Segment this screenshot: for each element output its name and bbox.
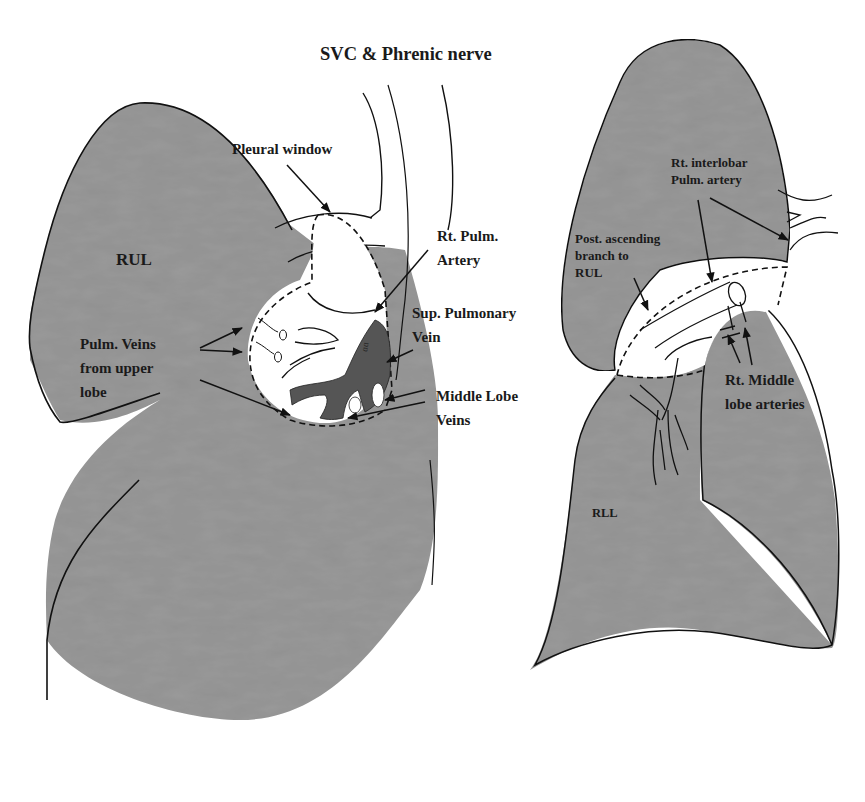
right-lung-panel: [530, 40, 839, 670]
sup-pulmonary-vein-label-line2: Vein: [412, 329, 441, 346]
rll-lobe-label: RLL: [592, 506, 618, 520]
post-ascending-label-line2: branch to: [575, 249, 629, 264]
middle-lobe-veins-label-line1: Middle Lobe: [436, 388, 518, 405]
post-ascending-label-line1: Post. ascending: [575, 232, 660, 247]
rt-pulm-artery-label-line2: Artery: [437, 252, 480, 269]
pulm-veins-label-line2: from upper: [80, 360, 153, 377]
pulm-veins-label-line1: Pulm. Veins: [80, 336, 156, 353]
svc-phrenic-nerve-label: SVC & Phrenic nerve: [320, 44, 492, 65]
sup-pulmonary-vein-label-line1: Sup. Pulmonary: [412, 305, 516, 322]
pulm-veins-label-line3: lobe: [80, 384, 107, 401]
rul-lobe-label: RUL: [116, 250, 152, 269]
interlobar-label-line1: Rt. interlobar: [671, 156, 748, 171]
interlobar-label-line2: Pulm. artery: [671, 173, 742, 188]
rt-pulm-artery-label-line1: Rt. Pulm.: [437, 228, 498, 245]
middle-lobe-arteries-label-line1: Rt. Middle: [725, 372, 794, 389]
post-ascending-label-line3: RUL: [575, 266, 602, 281]
left-lung-panel: ɑɑ: [29, 85, 452, 720]
pleural-window-label: Pleural window: [232, 141, 332, 158]
middle-lobe-veins-label-line2: Veins: [436, 412, 470, 429]
middle-lobe-arteries-label-line2: lobe arteries: [725, 396, 805, 413]
